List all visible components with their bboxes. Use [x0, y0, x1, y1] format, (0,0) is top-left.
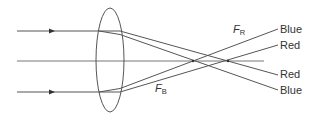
ray-label-top-red: Red	[280, 39, 300, 51]
ray-top-blue	[120, 35, 278, 91]
arrow-icon-top	[49, 29, 55, 34]
ray-label-bottom-red: Red	[280, 68, 300, 80]
lens-segment-top-blue	[99, 31, 120, 35]
convex-lens	[96, 8, 124, 112]
lens-segment-bottom-blue	[99, 89, 120, 93]
focal-point-blue	[192, 60, 194, 62]
focal-label-red: FR	[233, 23, 246, 37]
focal-label-blue: FB	[155, 82, 167, 96]
focal-point-red	[227, 60, 229, 62]
ray-label-bottom-blue: Blue	[280, 84, 302, 96]
ray-label-top-blue: Blue	[280, 23, 302, 35]
chromatic-aberration-diagram: FR FB Blue Red Red Blue	[0, 0, 317, 116]
arrow-icon-bottom	[49, 90, 55, 95]
